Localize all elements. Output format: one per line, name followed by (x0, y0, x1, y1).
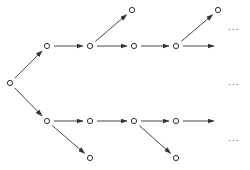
arrow-l1-to-b1 (52, 126, 84, 154)
arrow-root-to-l1 (15, 88, 42, 116)
node-u4 (173, 43, 178, 48)
arrow-u2-to-t1 (95, 15, 126, 42)
ellipses-layer: ......... (228, 22, 240, 143)
branching-diagram: ......... (0, 0, 250, 170)
continuation-ellipsis: ... (228, 77, 240, 87)
continuation-ellipsis: ... (228, 22, 240, 32)
node-u3 (131, 43, 136, 48)
nodes-layer (7, 7, 220, 160)
continuation-ellipsis: ... (228, 133, 240, 143)
node-b1 (87, 155, 92, 160)
edges-layer (15, 15, 214, 154)
node-b2 (173, 155, 178, 160)
node-u2 (87, 43, 92, 48)
node-l4 (173, 118, 178, 123)
arrow-u4-to-t2 (181, 15, 212, 42)
node-u1 (44, 43, 49, 48)
node-root (7, 80, 12, 85)
arrow-root-to-u1 (15, 51, 42, 78)
node-t1 (129, 7, 134, 12)
node-l1 (44, 118, 49, 123)
node-t2 (215, 7, 220, 12)
node-l2 (87, 118, 92, 123)
arrow-l3-to-b2 (139, 126, 170, 154)
node-l3 (131, 118, 136, 123)
